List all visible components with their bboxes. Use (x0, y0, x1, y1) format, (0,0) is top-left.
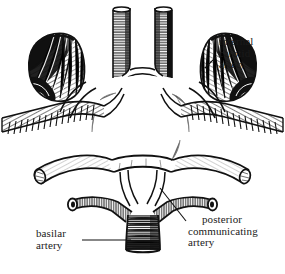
label-line: artery (188, 237, 258, 249)
label-line: artery (36, 240, 66, 252)
label-posterior-communicating-artery: posterior communicating artery (188, 214, 258, 249)
label-internal-carotid-artery: internal carotid artery (219, 36, 253, 71)
label-line: basilar (36, 228, 66, 240)
label-line: internal (219, 36, 253, 48)
label-line: artery (219, 59, 253, 71)
label-line: posterior (202, 214, 258, 226)
label-basilar-artery: basilar artery (36, 228, 66, 251)
